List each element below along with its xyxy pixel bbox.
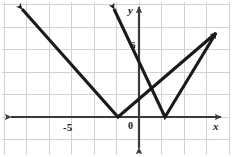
curve-narrow-v <box>114 9 216 117</box>
curve-wide-v <box>22 9 216 117</box>
graph-figure: -5 6 0 x y <box>0 0 232 157</box>
x-axis-label: x <box>213 121 219 132</box>
x-tick-label-neg5: -5 <box>63 122 72 133</box>
y-axis-label: y <box>128 5 133 16</box>
coordinate-plane-svg <box>0 0 232 157</box>
origin-label: 0 <box>128 121 133 131</box>
y-tick-label-6: 6 <box>130 40 136 51</box>
